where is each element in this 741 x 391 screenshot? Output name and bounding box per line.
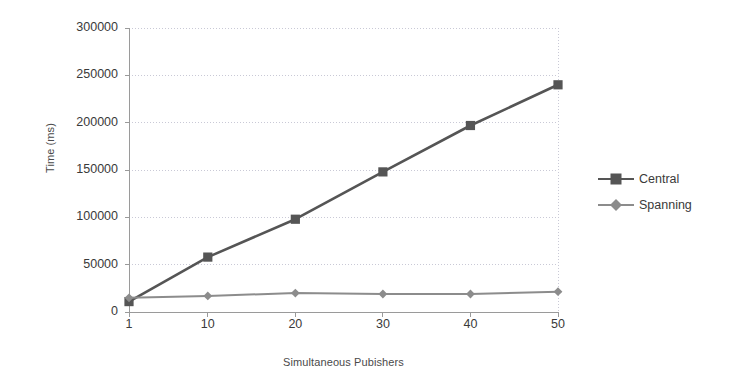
x-axis-tick-labels: 11020304050 [129, 318, 558, 338]
data-point-marker-spanning [291, 289, 300, 298]
data-point-marker-spanning [203, 292, 212, 301]
legend-diamond-icon [610, 199, 622, 211]
x-tick-label: 10 [178, 318, 238, 331]
legend-item-spanning[interactable]: Spanning [596, 192, 736, 218]
x-tick-label: 20 [265, 318, 325, 331]
y-tick-label: 250000 [52, 68, 118, 81]
y-tick-label: 100000 [52, 210, 118, 223]
series-line-spanning [129, 292, 558, 298]
y-tick-label: 200000 [52, 116, 118, 129]
plot-area [129, 28, 558, 312]
data-point-marker-spanning [554, 287, 563, 296]
data-point-marker-central [291, 215, 300, 224]
x-axis-title: Simultaneous Pubishers [129, 356, 558, 368]
data-point-marker-central [378, 167, 387, 176]
legend-marker-diamond-icon [596, 196, 636, 214]
series-line-central [129, 85, 558, 302]
legend-label: Spanning [636, 198, 692, 212]
legend-label: Central [636, 172, 679, 186]
y-tick-label: 300000 [52, 21, 118, 34]
data-point-marker-central [553, 80, 562, 89]
legend-square-icon [611, 174, 622, 185]
chart-container: Time (ms) 050000100000150000200000250000… [0, 0, 741, 391]
y-axis-tick-labels: 050000100000150000200000250000300000 [52, 0, 118, 391]
x-tick-label: 1 [99, 318, 159, 331]
chart-legend: CentralSpanning [596, 166, 736, 218]
data-point-marker-central [466, 121, 475, 130]
plot-svg [129, 28, 558, 312]
data-point-marker-central [203, 252, 212, 261]
legend-marker-square-icon [596, 170, 636, 188]
y-tick-label: 50000 [52, 258, 118, 271]
x-tick-label: 30 [353, 318, 413, 331]
x-tick-label: 40 [440, 318, 500, 331]
data-point-marker-spanning [378, 290, 387, 299]
y-tick-label: 0 [52, 305, 118, 318]
x-tick-label: 50 [528, 318, 588, 331]
legend-item-central[interactable]: Central [596, 166, 736, 192]
data-point-marker-spanning [466, 290, 475, 299]
y-tick-label: 150000 [52, 163, 118, 176]
